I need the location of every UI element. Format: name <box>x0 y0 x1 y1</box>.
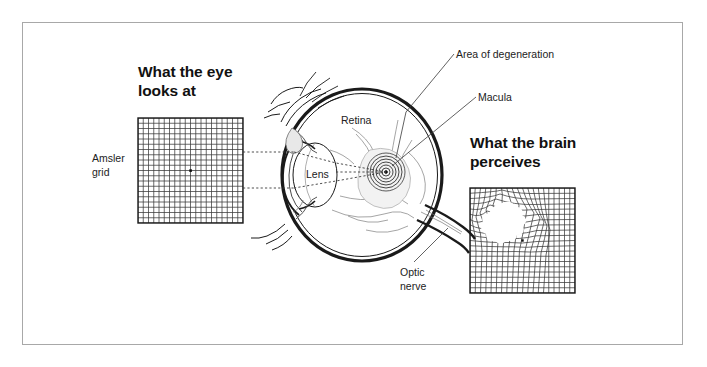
label-area-of-degeneration: Area of degeneration <box>456 48 554 62</box>
label-optic-nerve: Optic nerve <box>400 266 426 293</box>
amsler-grid-center-dot <box>189 169 192 172</box>
heading-what-the-eye-looks-at: What the eye looks at <box>138 62 232 100</box>
figure-canvas: What the eye looks at What the brain per… <box>0 0 707 367</box>
label-retina: Retina <box>341 114 371 128</box>
eyelid-lower <box>251 224 292 250</box>
label-amsler-grid: Amsler grid <box>92 152 125 179</box>
eye-illustration <box>251 72 475 261</box>
amsler-grid-distorted-center-dot <box>521 239 523 241</box>
illustration-svg <box>0 0 707 367</box>
label-macula: Macula <box>478 91 512 105</box>
leader-area-of-degeneration <box>406 54 454 112</box>
label-lens: Lens <box>306 168 329 182</box>
heading-what-the-brain-perceives: What the brain perceives <box>470 133 576 171</box>
